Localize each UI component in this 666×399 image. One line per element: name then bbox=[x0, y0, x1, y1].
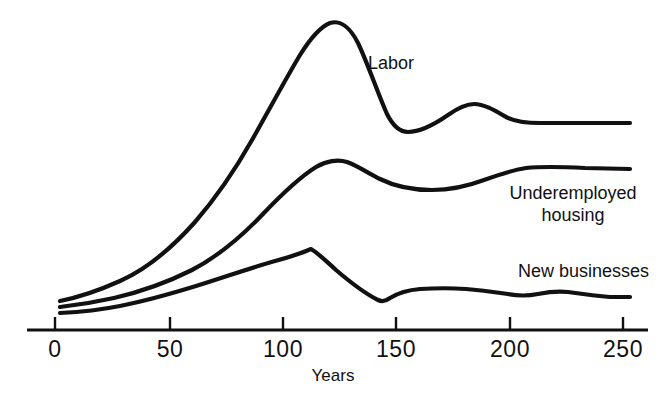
series-label-new-businesses: New businesses bbox=[518, 261, 649, 281]
x-axis-tick-label-250: 250 bbox=[603, 336, 643, 362]
x-axis-tick-label-0: 0 bbox=[48, 336, 61, 362]
series-label-labor: Labor bbox=[368, 53, 414, 73]
x-axis-tick-label-150: 150 bbox=[376, 336, 416, 362]
series-label-underemployed-housing-line1: Underemployed bbox=[509, 183, 636, 203]
x-axis-tick-label-50: 50 bbox=[157, 336, 184, 362]
series-line-new-businesses bbox=[60, 249, 630, 313]
x-axis-title: Years bbox=[312, 366, 355, 385]
x-axis-tick-label-100: 100 bbox=[263, 336, 303, 362]
x-axis: 0 50 100 150 200 250 Years bbox=[27, 317, 648, 385]
series-label-underemployed-housing-line2: housing bbox=[541, 205, 604, 225]
x-axis-tick-label-200: 200 bbox=[490, 336, 530, 362]
chart-container: 0 50 100 150 200 250 Years Labor Underem… bbox=[0, 0, 666, 399]
line-chart: 0 50 100 150 200 250 Years Labor Underem… bbox=[0, 0, 666, 399]
